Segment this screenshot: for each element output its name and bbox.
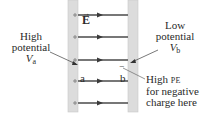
- parallel-plate-diagram: → E a b − High potential Va Low potentia…: [0, 0, 209, 120]
- high-pe-line3: charge here: [146, 97, 199, 108]
- point-b-label: b: [120, 73, 126, 84]
- left-plate: [68, 0, 78, 112]
- low-potential-symbol: Vb: [146, 42, 204, 56]
- high-potential-symbol: Va: [2, 53, 60, 67]
- point-a-label: a: [80, 73, 85, 84]
- high-potential-label: High potential Va: [2, 31, 60, 67]
- high-pe-line1: High: [146, 73, 168, 85]
- low-potential-label: Low potential Vb: [146, 20, 204, 56]
- right-plate: [128, 0, 138, 112]
- pe-abbrev: PE: [171, 76, 181, 85]
- vector-arrow-icon: →: [82, 8, 90, 19]
- pointer-lines: [50, 50, 158, 79]
- negative-charge-label: −: [119, 61, 124, 72]
- field-label: → E: [82, 15, 90, 26]
- field-line: [78, 101, 128, 106]
- high-pe-label: High PE for negative charge here: [146, 74, 199, 108]
- field-line: [78, 35, 128, 40]
